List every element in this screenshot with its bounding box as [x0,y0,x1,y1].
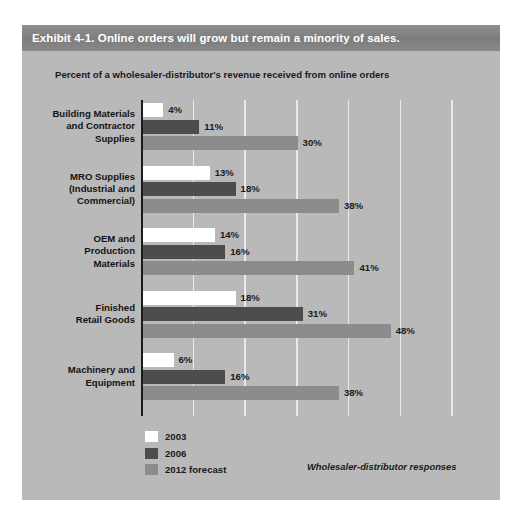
bar-value-label: 18% [236,182,260,196]
bar-value-label: 31% [303,307,327,321]
category-label-line: OEM and [84,233,135,245]
bar-row: 6% [143,353,483,367]
legend-item: 2012 forecast [145,462,226,477]
category-label-line: Retail Goods [76,314,135,326]
bar-row: 30% [143,136,483,150]
chart-subtitle: Percent of a wholesaler-distributor's re… [55,69,389,80]
legend-swatch-2003 [145,431,158,442]
bar-2006-4 [143,307,303,321]
bar-group: 13%18%38% [141,166,481,216]
bar-value-label: 38% [339,199,363,213]
category-label: Building Materialsand ContractorSupplies [52,108,135,145]
bar-value-label: 16% [225,245,249,259]
bar-group: 6%16%38% [141,353,481,403]
bar-value-label: 6% [174,353,193,367]
bar-row: 18% [143,182,483,196]
category-label-line: Production [84,245,135,257]
bar-value-label: 13% [210,166,234,180]
exhibit-panel: Exhibit 4-1. Online orders will grow but… [22,25,500,500]
bar-group: 4%11%30% [141,103,481,153]
bar-value-label: 30% [298,136,322,150]
bar-row: 4% [143,103,483,117]
category-label-line: Materials [84,258,135,270]
exhibit-title: Exhibit 4-1. Online orders will grow but… [22,32,400,44]
category-label-line: Finished [76,302,135,314]
category-label: FinishedRetail Goods [76,302,135,326]
bar-row: 13% [143,166,483,180]
bar-value-label: 41% [354,261,378,275]
bar-2006-2 [143,182,236,196]
bar-value-label: 16% [225,370,249,384]
category-label-column: Building Materialsand ContractorSupplies… [22,100,135,416]
category-label-line: Machinery and [68,364,135,376]
bar-2012-3 [143,261,355,275]
bar-value-label: 11% [199,120,223,134]
bar-row: 38% [143,199,483,213]
legend-item: 2006 [145,446,226,461]
bar-2012-1 [143,136,298,150]
bar-2003-4 [143,291,236,305]
bar-2003-2 [143,166,210,180]
bar-row: 11% [143,120,483,134]
bar-2012-4 [143,324,391,338]
category-label: OEM andProductionMaterials [84,233,135,270]
bar-value-label: 18% [236,291,260,305]
bar-2012-2 [143,199,339,213]
bar-row: 31% [143,307,483,321]
category-label-line: MRO Supplies [69,171,135,183]
legend-swatch-2012 [145,464,158,475]
bar-row: 38% [143,386,483,400]
bar-2006-1 [143,120,200,134]
bar-row: 41% [143,261,483,275]
bar-2003-5 [143,353,174,367]
bar-2003-3 [143,228,215,242]
exhibit-title-bar: Exhibit 4-1. Online orders will grow but… [22,25,500,51]
category-label-line: Supplies [52,133,135,145]
category-label-line: Commercial) [69,195,135,207]
chart-plot-area: 4%11%30%13%18%38%14%16%41%18%31%48%6%16%… [141,100,481,416]
bar-2006-3 [143,245,226,259]
category-label-line: (Industrial and [69,183,135,195]
bar-row: 16% [143,245,483,259]
bar-2003-1 [143,103,164,117]
bar-value-label: 14% [215,228,239,242]
category-label-line: and Contractor [52,120,135,132]
legend-item: 2003 [145,429,226,444]
legend-label: 2012 forecast [165,464,226,475]
category-label-line: Building Materials [52,108,135,120]
bar-row: 18% [143,291,483,305]
legend-label: 2006 [165,448,186,459]
bar-row: 48% [143,324,483,338]
bar-row: 14% [143,228,483,242]
chart-legend: 200320062012 forecast [145,429,226,479]
bar-value-label: 4% [163,103,182,117]
bar-row: 16% [143,370,483,384]
source-note: Wholesaler-distributor responses [307,461,457,472]
category-label-line: Equipment [68,377,135,389]
legend-swatch-2006 [145,448,158,459]
bar-value-label: 38% [339,386,363,400]
category-label: MRO Supplies(Industrial andCommercial) [69,171,135,208]
legend-label: 2003 [165,431,186,442]
bar-2006-5 [143,370,226,384]
bar-group: 14%16%41% [141,228,481,278]
bar-2012-5 [143,386,339,400]
bar-group: 18%31%48% [141,291,481,341]
category-label: Machinery andEquipment [68,364,135,388]
bar-value-label: 48% [391,324,415,338]
